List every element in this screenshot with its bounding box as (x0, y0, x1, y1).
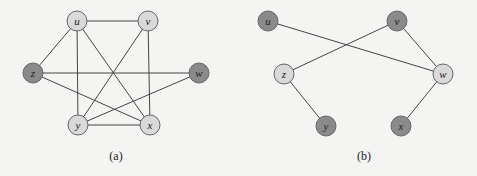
node-label: w (195, 67, 203, 79)
node-label: v (146, 15, 151, 27)
caption: (a) (109, 149, 122, 163)
graph-diagrams: uvzwyx(a)uvzwyx(b) (0, 0, 477, 176)
edge-u-w (268, 21, 443, 74)
node-label: u (265, 15, 271, 27)
node-label: z (30, 67, 36, 79)
node-label: u (74, 15, 80, 27)
node-label: w (439, 68, 447, 80)
node-label: y (323, 120, 329, 132)
node-label: x (398, 120, 404, 132)
node-label: x (147, 119, 153, 131)
graph-a: uvzwyx(a) (23, 11, 209, 163)
edge-v-z (284, 21, 397, 74)
node-label: v (395, 15, 400, 27)
graph-b: uvzwyx(b) (258, 11, 453, 163)
node-label: z (281, 68, 287, 80)
node-label: y (75, 119, 81, 131)
edge-z-x (33, 73, 150, 125)
caption: (b) (357, 149, 371, 163)
edge-v-w (397, 21, 443, 74)
edge-w-y (78, 73, 199, 125)
graph-figure: uvzwyx(a)uvzwyx(b) (0, 0, 477, 176)
